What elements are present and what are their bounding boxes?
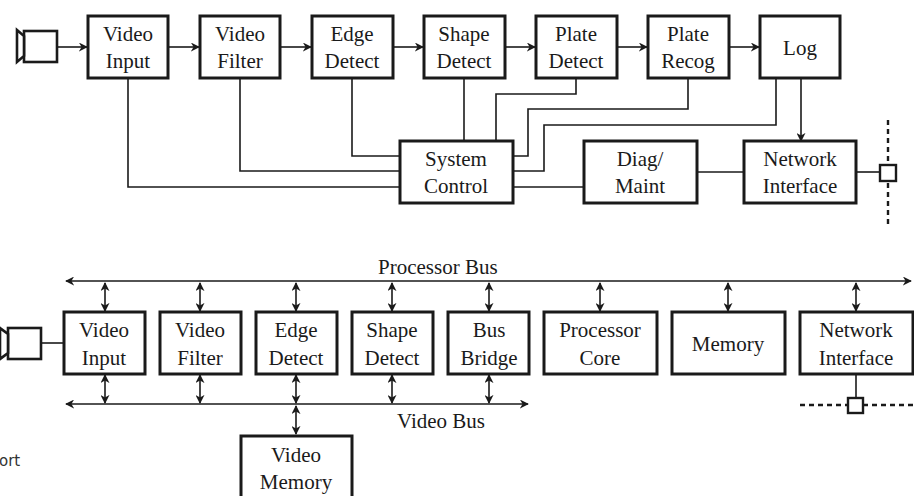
processor-bus-label: Processor Bus: [378, 255, 498, 279]
svg-text:Input: Input: [82, 346, 126, 370]
svg-text:Filter: Filter: [217, 49, 263, 73]
svg-text:Interface: Interface: [763, 174, 838, 198]
svg-text:Detect: Detect: [325, 49, 380, 73]
block-network-interface-2: Network Interface: [800, 312, 913, 374]
camera-icon-2: [0, 328, 41, 359]
svg-text:Network: Network: [819, 318, 893, 342]
block-video-input: Video Input: [88, 16, 168, 78]
svg-text:Network: Network: [763, 147, 837, 171]
svg-text:Plate: Plate: [667, 22, 709, 46]
svg-text:Control: Control: [424, 174, 488, 198]
svg-text:Detect: Detect: [437, 49, 492, 73]
svg-text:Detect: Detect: [269, 346, 324, 370]
block-video-filter-2: Video Filter: [160, 312, 241, 374]
svg-text:Memory: Memory: [692, 332, 765, 356]
svg-text:System: System: [425, 147, 487, 171]
block-shape-detect-2: Shape Detect: [352, 312, 433, 374]
block-processor-core: Processor Core: [544, 312, 657, 374]
block-bus-bridge: Bus Bridge: [448, 312, 529, 374]
block-video-filter: Video Filter: [200, 16, 280, 78]
block-memory: Memory: [672, 312, 785, 374]
svg-text:Plate: Plate: [555, 22, 597, 46]
svg-text:Video: Video: [215, 22, 265, 46]
side-text-fragment: ort: [0, 452, 20, 470]
block-plate-recog: Plate Recog: [648, 16, 729, 78]
svg-text:Edge: Edge: [330, 22, 373, 46]
svg-text:Filter: Filter: [177, 346, 223, 370]
svg-text:Detect: Detect: [549, 49, 604, 73]
svg-text:Shape: Shape: [366, 318, 417, 342]
svg-text:Detect: Detect: [365, 346, 420, 370]
svg-text:Diag/: Diag/: [617, 147, 664, 171]
block-plate-detect: Plate Detect: [536, 16, 617, 78]
block-video-input-2: Video Input: [64, 312, 145, 374]
block-system-control: System Control: [400, 141, 513, 203]
svg-text:Maint: Maint: [615, 174, 665, 198]
block-diag-maint: Diag/ Maint: [584, 141, 697, 203]
svg-text:Edge: Edge: [274, 318, 317, 342]
svg-text:Interface: Interface: [819, 346, 894, 370]
svg-text:Core: Core: [580, 346, 621, 370]
block-shape-detect: Shape Detect: [424, 16, 505, 78]
top-diagram: Video Input Video Filter Edge Detect Sha…: [17, 16, 896, 228]
block-log: Log: [760, 16, 840, 78]
svg-text:Video: Video: [271, 443, 321, 467]
svg-text:Input: Input: [106, 49, 150, 73]
network-connector-icon-2: [848, 398, 863, 413]
svg-text:Video: Video: [79, 318, 129, 342]
svg-text:Video: Video: [103, 22, 153, 46]
block-edge-detect: Edge Detect: [312, 16, 393, 78]
video-bus-label: Video Bus: [397, 409, 485, 433]
block-network-interface: Network Interface: [744, 141, 856, 203]
svg-text:Memory: Memory: [260, 470, 333, 494]
block-edge-detect-2: Edge Detect: [256, 312, 337, 374]
svg-text:Video: Video: [175, 318, 225, 342]
svg-text:Recog: Recog: [661, 49, 715, 73]
svg-text:Bus: Bus: [473, 318, 506, 342]
camera-icon: [17, 30, 57, 62]
svg-text:Bridge: Bridge: [460, 346, 517, 370]
block-video-memory: Video Memory: [241, 436, 352, 496]
svg-text:Processor: Processor: [559, 318, 641, 342]
block-diagram: Video Input Video Filter Edge Detect Sha…: [0, 0, 914, 496]
bottom-diagram: Processor Bus Video Bus: [0, 255, 914, 496]
svg-text:Log: Log: [783, 36, 817, 60]
network-connector-icon: [880, 165, 896, 181]
svg-text:Shape: Shape: [438, 22, 489, 46]
